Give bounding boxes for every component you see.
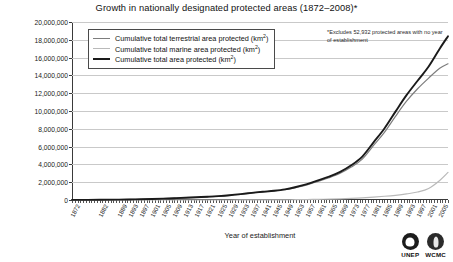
x-tick-mark bbox=[301, 200, 302, 203]
y-tick-label: 12,000,000 bbox=[35, 90, 68, 97]
x-tick-label: 1985 bbox=[381, 203, 394, 218]
unep-logo: UNEP bbox=[401, 233, 419, 258]
x-tick-mark bbox=[382, 200, 383, 203]
unep-logo-caption: UNEP bbox=[401, 251, 419, 258]
x-tick-label: 1925 bbox=[215, 203, 228, 218]
legend-swatch bbox=[93, 58, 110, 60]
x-tick-mark bbox=[296, 200, 297, 203]
x-tick-mark bbox=[445, 200, 446, 203]
x-tick-mark bbox=[404, 200, 405, 203]
y-tick-label: 20,000,000 bbox=[35, 19, 68, 26]
x-tick-mark bbox=[373, 200, 374, 203]
legend-item[interactable]: Cumulative total area protected (km2) bbox=[93, 54, 268, 65]
x-tick-mark bbox=[357, 200, 358, 203]
x-tick-mark bbox=[348, 200, 349, 203]
x-tick-mark bbox=[360, 200, 361, 203]
y-tick-label: 6,000,000 bbox=[38, 143, 68, 150]
y-tick-label: 14,000,000 bbox=[35, 72, 68, 79]
x-tick-mark bbox=[423, 200, 424, 203]
x-tick-mark bbox=[407, 200, 408, 203]
logo-group: UNEP WCMC bbox=[401, 233, 446, 258]
footnote-annotation: *Excludes 52,932 protected areas with no… bbox=[327, 28, 445, 44]
x-tick-mark bbox=[324, 200, 325, 203]
x-tick-mark bbox=[415, 200, 416, 203]
x-tick-mark bbox=[313, 200, 314, 203]
legend-swatch bbox=[93, 48, 110, 49]
series-line-1 bbox=[72, 172, 448, 200]
x-tick-label: 1921 bbox=[204, 203, 217, 218]
legend-swatch bbox=[93, 38, 110, 39]
x-tick-mark bbox=[390, 200, 391, 203]
x-tick-mark bbox=[395, 200, 396, 203]
y-tick-label: 10,000,000 bbox=[35, 108, 68, 115]
y-tick-label: 16,000,000 bbox=[35, 54, 68, 61]
x-tick-mark bbox=[340, 200, 341, 203]
y-tick-label: 18,000,000 bbox=[35, 36, 68, 43]
legend-item[interactable]: Cumulative total terrestrial area protec… bbox=[93, 33, 268, 44]
legend-label: Cumulative total area protected (km2) bbox=[115, 54, 236, 64]
x-tick-label: 1981 bbox=[370, 203, 383, 218]
x-tick-mark bbox=[304, 200, 305, 203]
x-tick-label: 1989 bbox=[392, 203, 405, 218]
x-tick-label: 1917 bbox=[193, 203, 206, 218]
x-tick-mark bbox=[362, 200, 363, 203]
x-axis-title: Year of establishment bbox=[72, 231, 448, 240]
y-tick-label: 2,000,000 bbox=[38, 179, 68, 186]
x-tick-mark bbox=[401, 200, 402, 203]
wcmc-logo: WCMC bbox=[425, 233, 446, 258]
y-tick-label: 0 bbox=[64, 197, 68, 204]
x-tick-mark bbox=[437, 200, 438, 203]
x-tick-mark bbox=[434, 200, 435, 203]
x-tick-mark bbox=[307, 200, 308, 203]
legend-item[interactable]: Cumulative total marine area protected (… bbox=[93, 44, 268, 55]
x-tick-mark bbox=[293, 200, 294, 203]
globe-leaf-icon bbox=[402, 233, 419, 250]
x-tick-mark bbox=[393, 200, 394, 203]
legend-label: Cumulative total marine area protected (… bbox=[115, 44, 260, 54]
x-tick-label: 1882 bbox=[96, 203, 109, 218]
x-tick-mark bbox=[426, 200, 427, 203]
x-tick-mark bbox=[335, 200, 336, 203]
x-tick-label: 1872 bbox=[69, 203, 82, 218]
x-tick-mark bbox=[448, 200, 449, 203]
x-tick-label: 1973 bbox=[348, 203, 361, 218]
x-tick-label: 1909 bbox=[171, 203, 184, 218]
x-tick-mark bbox=[337, 200, 338, 203]
x-tick-mark bbox=[290, 200, 291, 203]
chart-title: Growth in nationally designated protecte… bbox=[0, 3, 453, 13]
x-tick-label: 1977 bbox=[359, 203, 372, 218]
wcmc-logo-caption: WCMC bbox=[425, 251, 446, 258]
x-tick-mark bbox=[329, 200, 330, 203]
x-tick-mark bbox=[429, 200, 430, 203]
x-tick-label: 1993 bbox=[403, 203, 416, 218]
x-tick-mark bbox=[440, 200, 441, 203]
x-tick-mark bbox=[326, 200, 327, 203]
x-tick-label: 1913 bbox=[182, 203, 195, 218]
x-tick-label: 1889 bbox=[116, 203, 129, 218]
x-tick-mark bbox=[318, 200, 319, 203]
legend-label: Cumulative total terrestrial area protec… bbox=[115, 33, 268, 43]
series-line-0 bbox=[72, 64, 448, 200]
chart-legend: Cumulative total terrestrial area protec… bbox=[88, 29, 275, 69]
x-tick-mark bbox=[418, 200, 419, 203]
x-tick-mark bbox=[371, 200, 372, 203]
y-tick-label: 8,000,000 bbox=[38, 125, 68, 132]
flame-leaf-icon bbox=[427, 233, 444, 250]
x-tick-mark bbox=[351, 200, 352, 203]
x-tick-mark bbox=[412, 200, 413, 203]
x-tick-mark bbox=[346, 200, 347, 203]
x-tick-label: 1905 bbox=[160, 203, 173, 218]
x-tick-mark bbox=[368, 200, 369, 203]
x-tick-mark bbox=[315, 200, 316, 203]
y-tick-label: 4,000,000 bbox=[38, 161, 68, 168]
x-tick-mark bbox=[384, 200, 385, 203]
x-tick-mark bbox=[379, 200, 380, 203]
chart-figure: Growth in nationally designated protecte… bbox=[0, 0, 453, 262]
